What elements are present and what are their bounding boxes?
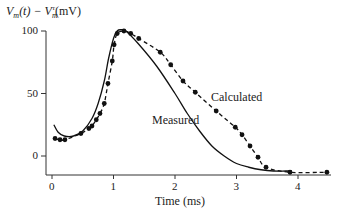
calculated-data-point (233, 125, 238, 130)
measured-annotation: Measured (152, 113, 199, 128)
calculated-data-point (122, 29, 127, 34)
calculated-data-point (110, 59, 115, 64)
calculated-data-point (181, 79, 186, 84)
x-axis-label: Time (ms) (155, 194, 205, 209)
calculated-data-point (240, 132, 245, 137)
calculated-data-point (248, 144, 253, 149)
x-tick-label: 2 (172, 180, 178, 192)
calculated-data-point (94, 117, 99, 122)
calculated-annotation: Calculated (211, 90, 262, 105)
calculated-data-point (256, 155, 261, 160)
y-axis-label: Vm(t) − Vmr(mV) (6, 4, 81, 20)
calculated-data-point (193, 90, 198, 95)
calculated-data-point (98, 111, 103, 116)
calculated-data-point (112, 42, 117, 47)
y-tick-label: 0 (33, 149, 39, 161)
calculated-data-point (325, 170, 330, 175)
calculated-data-point (158, 50, 163, 55)
calculated-data-point (106, 81, 111, 86)
x-tick-label: 4 (295, 180, 301, 192)
calculated-data-point (264, 165, 269, 170)
y-tick-label: 50 (27, 87, 38, 99)
calculated-data-point (53, 136, 58, 141)
calculated-data-point (288, 170, 293, 175)
calculated-data-point (214, 109, 219, 114)
calculated-data-point (102, 101, 107, 106)
calculated-data-point (168, 62, 173, 67)
y-tick-label: 100 (22, 24, 39, 36)
calculated-data-point (63, 137, 68, 142)
x-tick-label: 1 (111, 180, 117, 192)
calculated-data-point (58, 137, 63, 142)
x-tick-label: 3 (234, 180, 240, 192)
calculated-data-point (128, 31, 133, 36)
calculated-data-point (136, 36, 141, 41)
calculated-data-point (79, 131, 84, 136)
x-tick-label: 0 (49, 180, 55, 192)
calculated-data-point (115, 31, 120, 36)
calculated-data-point (90, 124, 95, 129)
calculated-curve (55, 31, 327, 173)
